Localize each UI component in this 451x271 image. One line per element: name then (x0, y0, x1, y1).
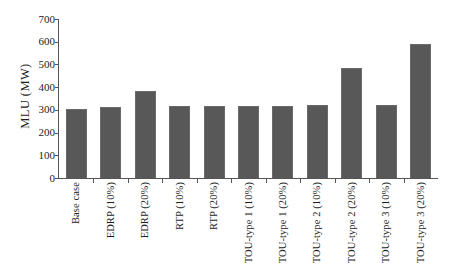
y-tick-mark (55, 87, 59, 88)
bar-slot (59, 19, 93, 178)
y-tick-label: 600 (30, 36, 55, 47)
x-tick-label: TOU-type 2 (10%) (311, 182, 322, 263)
y-tick-mark (55, 155, 59, 156)
y-tick-label: 0 (30, 173, 55, 184)
y-tick-label: 400 (30, 82, 55, 93)
y-tick-label: 300 (30, 104, 55, 115)
bar[interactable] (410, 44, 431, 178)
bar[interactable] (307, 105, 328, 178)
bar[interactable] (169, 106, 190, 178)
y-tick-label: 700 (30, 14, 55, 25)
bar-slot (369, 19, 403, 178)
bar[interactable] (204, 106, 225, 178)
x-axis-tick-labels: Base caseEDRP (10%)EDRP (20%)RTP (10%)RT… (58, 182, 437, 271)
x-tick-label: EDRP (10%) (104, 182, 115, 238)
bar-slot (404, 19, 438, 178)
x-tick-label: RTP (10%) (173, 182, 184, 230)
x-tick-label: TOU-type 3 (10%) (380, 182, 391, 263)
bar-slot (128, 19, 162, 178)
y-tick-label: 500 (30, 59, 55, 70)
y-tick-mark (55, 178, 59, 179)
x-tick-label: TOU-type 3 (20%) (414, 182, 425, 263)
bar-slot (197, 19, 231, 178)
bar-slot (231, 19, 265, 178)
y-axis-tick-labels: 7006005004003002001000 (30, 13, 55, 178)
bar[interactable] (66, 109, 87, 178)
bar[interactable] (341, 68, 362, 178)
bar-chart-figure: MLU (MW) 7006005004003002001000 Base cas… (0, 0, 451, 271)
plot-area (58, 19, 438, 179)
x-tick-label: TOU-type 1 (10%) (242, 182, 253, 263)
bar-slot (300, 19, 334, 178)
y-tick-label: 200 (30, 127, 55, 138)
y-tick-mark (55, 64, 59, 65)
y-tick-mark (55, 42, 59, 43)
bar[interactable] (135, 91, 156, 178)
x-tick-label: Base case (70, 182, 81, 224)
bar[interactable] (272, 106, 293, 178)
bars-layer (59, 19, 438, 178)
bar-slot (93, 19, 127, 178)
x-tick-label: TOU-type 1 (20%) (276, 182, 287, 263)
bar[interactable] (376, 105, 397, 178)
x-tick-label: EDRP (20%) (139, 182, 150, 238)
y-tick-mark (55, 133, 59, 134)
bar-slot (162, 19, 196, 178)
bar-slot (335, 19, 369, 178)
x-tick-label: TOU-type 2 (20%) (345, 182, 356, 263)
bar-slot (266, 19, 300, 178)
y-tick-mark (55, 110, 59, 111)
y-tick-label: 100 (30, 150, 55, 161)
y-tick-mark (55, 19, 59, 20)
bar[interactable] (100, 107, 121, 178)
x-tick-label: RTP (20%) (208, 182, 219, 230)
bar[interactable] (238, 106, 259, 178)
